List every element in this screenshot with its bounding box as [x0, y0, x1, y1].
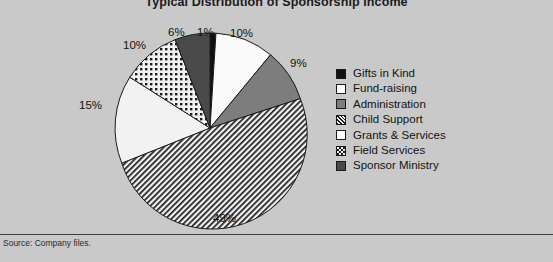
legend-item-grants-services: Grants & Services — [336, 128, 536, 143]
legend-swatch-sponsor-ministry — [336, 161, 346, 171]
legend-label-fund-raising: Fund-raising — [353, 83, 417, 95]
legend-item-child-support: Child Support — [336, 112, 536, 127]
legend-item-administration: Administration — [336, 97, 536, 112]
legend-item-field-services: Field Services — [336, 143, 536, 158]
pie-label-administration: 9% — [290, 57, 307, 69]
legend-label-sponsor-ministry: Sponsor Ministry — [353, 160, 439, 172]
pie-chart-figure: Typical Distribution of Sponsorship Inco… — [0, 0, 553, 262]
chart-title: Typical Distribution of Sponsorship Inco… — [0, 0, 553, 9]
legend-swatch-gifts-in-kind — [336, 69, 346, 79]
legend-swatch-child-support — [336, 115, 346, 125]
footer-divider — [0, 234, 553, 235]
chart-legend: Gifts in Kind Fund-raising Administratio… — [336, 66, 536, 174]
legend-item-gifts-in-kind: Gifts in Kind — [336, 66, 536, 81]
legend-item-fund-raising: Fund-raising — [336, 81, 536, 96]
legend-item-sponsor-ministry: Sponsor Ministry — [336, 158, 536, 173]
legend-label-field-services: Field Services — [353, 145, 425, 157]
legend-label-grants-services: Grants & Services — [353, 130, 446, 142]
pie-label-field-services: 10% — [123, 39, 146, 51]
pie-label-gifts-in-kind: 1% — [197, 26, 214, 38]
pie-label-sponsor-ministry: 6% — [168, 26, 185, 38]
pie-label-child-support: 49% — [213, 212, 236, 224]
legend-swatch-field-services — [336, 146, 346, 156]
legend-swatch-administration — [336, 99, 346, 109]
pie-label-grants-services: 15% — [79, 99, 102, 111]
legend-label-administration: Administration — [353, 99, 426, 111]
source-note: Source: Company files. — [3, 238, 91, 248]
pie-label-fund-raising: 10% — [230, 27, 253, 39]
legend-swatch-grants-services — [336, 130, 346, 140]
legend-label-gifts-in-kind: Gifts in Kind — [353, 68, 415, 80]
legend-swatch-fund-raising — [336, 84, 346, 94]
legend-label-child-support: Child Support — [353, 114, 423, 126]
